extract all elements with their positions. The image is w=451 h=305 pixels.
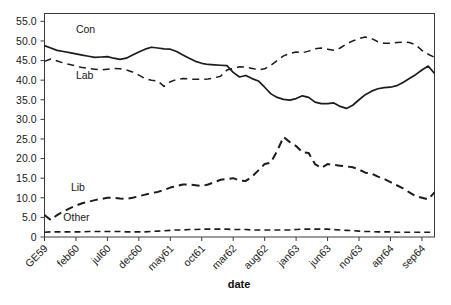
y-tick-label: 40.0 <box>16 74 37 86</box>
y-tick-label: 10.0 <box>16 192 37 204</box>
x-tick-label: nov63 <box>336 242 365 271</box>
y-tick-label: 45.0 <box>16 54 37 66</box>
x-tick-label: oct61 <box>181 242 208 269</box>
y-tick-label: 20.0 <box>16 152 37 164</box>
series-label-lab: Lab <box>76 69 94 81</box>
x-tick-label: may61 <box>145 242 176 273</box>
x-tick-label: apr64 <box>368 242 396 270</box>
y-tick-label: 15.0 <box>16 172 37 184</box>
plot-frame <box>45 14 435 238</box>
x-axis: GE59feb60jul60dec60may61oct61mar62aug62j… <box>22 237 427 273</box>
y-tick-label: 35.0 <box>16 94 37 106</box>
x-tick-label: jul60 <box>88 242 113 267</box>
y-tick-label: 30.0 <box>16 113 37 125</box>
series-line-con <box>45 46 435 109</box>
x-tick-label: dec60 <box>116 242 145 271</box>
x-tick-label: mar62 <box>209 242 239 272</box>
y-tick-label: 55.0 <box>16 15 37 27</box>
x-tick-label: aug62 <box>241 242 270 271</box>
y-tick-label: 25.0 <box>16 133 37 145</box>
x-axis-title: date <box>228 278 251 290</box>
x-tick-label: sep64 <box>399 242 428 271</box>
series-line-lib <box>45 137 435 220</box>
series-lines <box>45 37 435 232</box>
series-label-other: Other <box>63 211 90 223</box>
y-tick-label: 0 <box>31 231 37 243</box>
chart-canvas: 05.010.015.020.025.030.035.040.045.050.0… <box>0 0 451 305</box>
series-line-lab <box>45 37 435 86</box>
poll-trend-chart: 05.010.015.020.025.030.035.040.045.050.0… <box>0 0 451 305</box>
series-label-con: Con <box>76 23 95 35</box>
x-tick-label: jan63 <box>274 242 301 269</box>
series-label-lib: Lib <box>71 181 85 193</box>
y-axis: 05.010.015.020.025.030.035.040.045.050.0… <box>16 15 44 243</box>
x-tick-label: feb60 <box>54 242 81 269</box>
y-tick-label: 5.0 <box>22 211 37 223</box>
y-tick-label: 50.0 <box>16 35 37 47</box>
series-line-other <box>45 229 435 232</box>
x-tick-label: jun63 <box>306 242 333 269</box>
x-tick-label: GE59 <box>22 242 50 270</box>
